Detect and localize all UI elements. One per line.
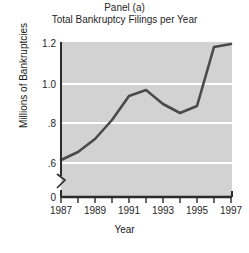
- x-tick-label-1997: 1997: [220, 205, 243, 216]
- x-tick-label-1987: 1987: [50, 205, 73, 216]
- y-tick-label-0: 0: [50, 192, 56, 203]
- x-tick-label-1989: 1989: [84, 205, 107, 216]
- chart-canvas: 1.2 1.0 .8 .6 0 1987 1989 1991 1993 1995…: [0, 0, 249, 253]
- y-tick-label-1-2: 1.2: [42, 38, 56, 49]
- y-tick-label-0-8: .8: [48, 118, 57, 129]
- plot-area-background: [61, 42, 232, 197]
- x-tick-label-1993: 1993: [152, 205, 175, 216]
- y-tick-label-1-0: 1.0: [42, 79, 56, 90]
- x-tick-label-1995: 1995: [186, 205, 209, 216]
- chart-figure: Panel (a) Total Bankruptcy Filings per Y…: [0, 0, 249, 253]
- y-tick-label-0-6: .6: [48, 158, 57, 169]
- x-tick-label-1991: 1991: [118, 205, 141, 216]
